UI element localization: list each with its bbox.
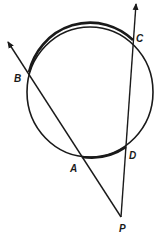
label-B: B [14, 73, 21, 84]
label-D: D [129, 150, 136, 161]
label-C: C [136, 33, 144, 44]
secant-diagram: B C A D P [0, 0, 158, 237]
arc-AD [82, 147, 126, 158]
label-A: A [69, 163, 77, 174]
secant-PAB [8, 42, 121, 217]
circle [27, 27, 153, 157]
label-P: P [119, 223, 126, 234]
